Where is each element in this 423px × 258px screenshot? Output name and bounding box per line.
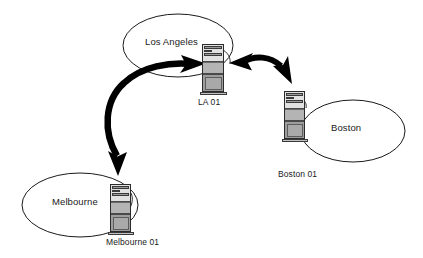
tower-lower-panel bbox=[111, 214, 130, 231]
drive-bay bbox=[286, 100, 303, 102]
tower-base bbox=[282, 139, 308, 142]
tower-body bbox=[110, 184, 131, 232]
tower-body bbox=[284, 91, 305, 139]
node-label-la-01: LA 01 bbox=[198, 97, 220, 107]
link-la-boston bbox=[229, 53, 292, 84]
tower-lower-panel bbox=[203, 74, 223, 91]
link-la-melbourne bbox=[108, 55, 206, 176]
drive-bay bbox=[204, 46, 222, 48]
tower-drive-bays bbox=[203, 45, 223, 62]
site-label-boston: Boston bbox=[331, 122, 361, 133]
tower-drive-bays bbox=[111, 185, 130, 202]
tower-base bbox=[108, 232, 134, 235]
drive-bay bbox=[286, 93, 303, 95]
drive-bay bbox=[204, 53, 222, 55]
drive-bay bbox=[112, 190, 119, 192]
drive-bay bbox=[112, 186, 129, 188]
tower-lower-panel bbox=[285, 121, 304, 138]
tower-body bbox=[202, 44, 224, 92]
network-diagram-canvas: Los Angeles LA 01 Boston Boston 01 bbox=[0, 0, 423, 258]
tower-mid-panel bbox=[285, 109, 304, 121]
site-label-los-angeles: Los Angeles bbox=[145, 36, 198, 47]
tower-drive-bays bbox=[285, 92, 304, 109]
drive-bay bbox=[204, 50, 212, 52]
site-label-melbourne: Melbourne bbox=[52, 196, 98, 207]
tower-mid-panel bbox=[203, 62, 223, 74]
tower-mid-panel bbox=[111, 202, 130, 214]
server-tower-icon-melbourne[interactable] bbox=[110, 184, 131, 232]
drive-bay bbox=[112, 193, 129, 195]
node-label-melbourne-01: Melbourne 01 bbox=[106, 237, 159, 247]
drive-bay bbox=[286, 97, 293, 99]
tower-base bbox=[200, 92, 227, 95]
node-label-boston-01: Boston 01 bbox=[278, 169, 317, 179]
server-tower-icon-boston[interactable] bbox=[284, 91, 305, 139]
server-tower-icon-la[interactable] bbox=[202, 44, 224, 92]
